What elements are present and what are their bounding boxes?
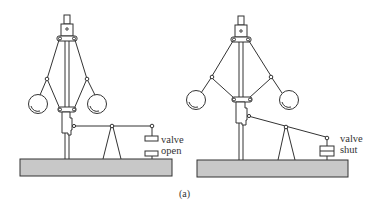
base-plate-left bbox=[20, 159, 172, 176]
flyball-left bbox=[187, 91, 206, 110]
valve-label-left: valve open bbox=[161, 134, 184, 156]
valve-label-left-line2: open bbox=[161, 145, 184, 156]
valve-label-right-line1: valve bbox=[340, 133, 363, 144]
governor-left-valve-open bbox=[20, 15, 172, 176]
governor-right-valve-shut bbox=[187, 16, 349, 177]
flyball-right bbox=[88, 95, 107, 114]
valve-label-right-line2: shut bbox=[340, 144, 363, 155]
base-plate-right bbox=[197, 160, 348, 177]
governor-diagram bbox=[0, 0, 380, 213]
figure-caption: (a) bbox=[179, 188, 190, 199]
valve-label-right: valve shut bbox=[340, 133, 363, 155]
valve-disc-left bbox=[145, 136, 158, 141]
flyball-left bbox=[29, 95, 48, 114]
flyball-right bbox=[280, 91, 299, 110]
valve-seat-left bbox=[145, 151, 158, 156]
valve-label-left-line1: valve bbox=[161, 134, 184, 145]
